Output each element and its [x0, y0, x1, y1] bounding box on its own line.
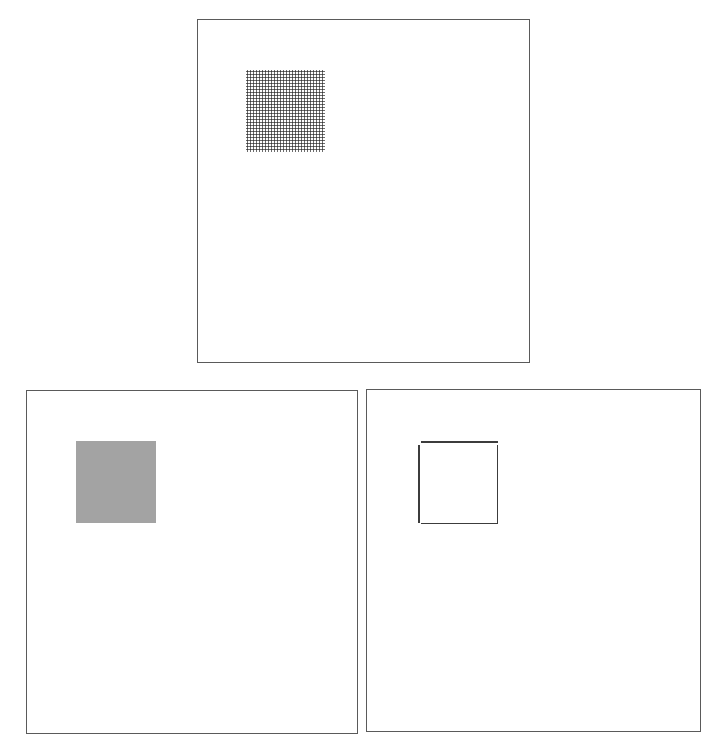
square-edge-left [418, 445, 420, 523]
dot-grid-square [246, 70, 325, 152]
square-edge-bottom [421, 523, 498, 525]
bottom-right-panel [366, 389, 701, 732]
gray-filled-square [76, 441, 156, 523]
outlined-square [418, 441, 498, 524]
square-edge-top [421, 441, 498, 443]
top-panel [197, 19, 530, 363]
bottom-left-panel [26, 390, 358, 734]
square-edge-right [497, 445, 499, 523]
